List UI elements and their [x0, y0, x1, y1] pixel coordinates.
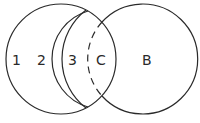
venn-diagram: 1 2 3 C B [0, 0, 200, 123]
region-2-label: 2 [37, 52, 46, 68]
region-3-label: 3 [68, 52, 77, 68]
region-b-label: B [142, 52, 152, 68]
region-c-label: C [96, 52, 106, 68]
region-1-label: 1 [12, 52, 21, 68]
